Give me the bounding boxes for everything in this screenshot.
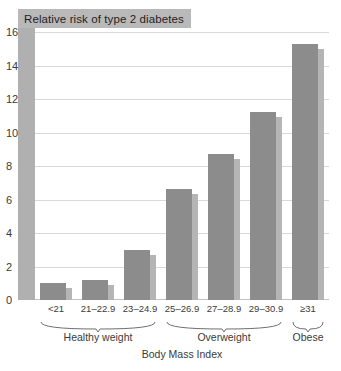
bar-shadow — [192, 194, 198, 300]
bar-shadow — [318, 49, 324, 300]
bar-slot — [250, 32, 282, 300]
bar[interactable] — [124, 250, 150, 300]
y-axis-tick-label: 6 — [6, 194, 30, 206]
bar-shadow — [276, 117, 282, 300]
plot-area: 0246810121416 — [35, 32, 329, 300]
bar-slot — [82, 32, 114, 300]
chart-title: Relative risk of type 2 diabetes — [24, 13, 184, 25]
bar-series — [35, 32, 329, 300]
y-axis-tick-label: 8 — [6, 160, 30, 172]
y-axis-tick-label: 0 — [6, 294, 30, 306]
bar-shadow — [66, 288, 72, 300]
x-axis: Body Mass Index <2121–22.923–24.925–26.9… — [35, 300, 329, 371]
x-axis-tick-label: 25–26.9 — [165, 303, 199, 314]
bar-shadow — [108, 285, 114, 300]
bar[interactable] — [292, 44, 318, 300]
bar-slot — [124, 32, 156, 300]
bar-shadow — [234, 159, 240, 300]
bar-slot — [208, 32, 240, 300]
x-axis-tick-label: 21–22.9 — [81, 303, 115, 314]
x-axis-tick-label: 23–24.9 — [123, 303, 157, 314]
group-brace — [166, 319, 282, 330]
x-axis-tick-label: 27–28.9 — [207, 303, 241, 314]
chart-figure: Relative risk of type 2 diabetes 0246810… — [0, 0, 341, 371]
bar[interactable] — [250, 112, 276, 300]
bar-shadow — [150, 255, 156, 300]
x-axis-tick-label: 29–30.9 — [249, 303, 283, 314]
y-axis-tick-label: 10 — [6, 127, 30, 139]
group-brace — [40, 319, 156, 330]
chart-title-box: Relative risk of type 2 diabetes — [18, 9, 191, 28]
bar-slot — [40, 32, 72, 300]
group-brace — [292, 319, 324, 330]
bar[interactable] — [208, 154, 234, 300]
bar-slot — [292, 32, 324, 300]
y-axis-tick-label: 12 — [6, 93, 30, 105]
x-axis-title: Body Mass Index — [142, 348, 223, 360]
group-label: Obese — [293, 331, 324, 343]
x-axis-tick-label: ≥31 — [300, 303, 316, 314]
bar[interactable] — [82, 280, 108, 300]
group-label: Overweight — [197, 331, 250, 343]
y-axis-tick-label: 2 — [6, 261, 30, 273]
y-axis-tick-label: 4 — [6, 227, 30, 239]
bar[interactable] — [40, 283, 66, 300]
bar-slot — [166, 32, 198, 300]
group-label: Healthy weight — [64, 331, 133, 343]
x-axis-tick-label: <21 — [48, 303, 64, 314]
y-axis-tick-label: 14 — [6, 60, 30, 72]
y-axis-tick-label: 16 — [6, 26, 30, 38]
bar[interactable] — [166, 189, 192, 300]
